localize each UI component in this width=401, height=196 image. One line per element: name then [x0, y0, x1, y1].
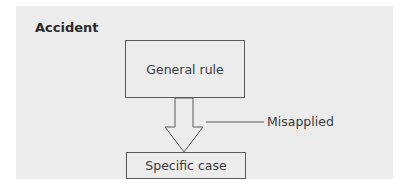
general-rule-label: General rule: [146, 62, 223, 77]
general-rule-box: General rule: [125, 40, 245, 98]
specific-case-box: Specific case: [126, 152, 246, 179]
specific-case-label: Specific case: [145, 158, 226, 173]
diagram-title: Accident: [35, 20, 99, 35]
misapplied-label: Misapplied: [267, 114, 334, 129]
